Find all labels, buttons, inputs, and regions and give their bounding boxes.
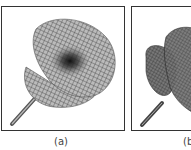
- caption-a: (a): [54, 136, 68, 147]
- caption-b: (b): [183, 136, 191, 147]
- figure-panel-a: [1, 6, 125, 131]
- figure-panel-b: [131, 6, 191, 131]
- mesh-surface-image-b: [132, 7, 191, 131]
- mesh-surface-image-a: [2, 7, 125, 131]
